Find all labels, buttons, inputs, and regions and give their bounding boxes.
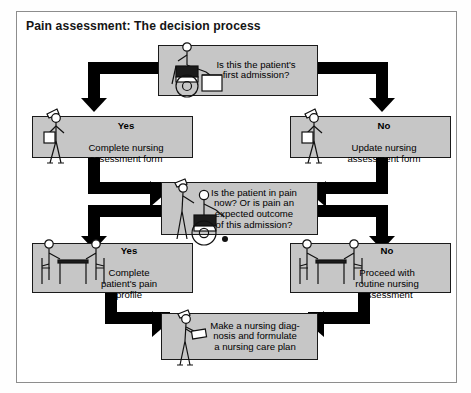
connector-q2-left-vertical (88, 205, 100, 238)
node-routine-nursing-assessment-text: No Proceed with routine nursing assessme… (331, 235, 443, 300)
node-first-admission-question[interactable]: Is this the patient's first admission? (158, 45, 318, 96)
node-nursing-diagnosis-care-plan[interactable]: Make a nursing diag- nosis and formulate… (161, 313, 318, 360)
figure-canvas: Pain assessment: The decision process (0, 0, 471, 393)
connector-q1-right-vertical (376, 62, 388, 99)
node-first-admission-text: Is this the patient's first admission? (202, 60, 310, 81)
node-yes-body-1: Complete nursing assessment form (88, 142, 163, 164)
node-no-label-2: No (331, 246, 443, 257)
node-pain-now-text: Is the patient in pain now? Or is pain a… (198, 187, 310, 230)
node-complete-pain-profile[interactable]: Yes Complete patient's pain profile (32, 243, 193, 293)
node-no-body-2: Proceed with routine nursing assessment (355, 268, 418, 300)
node-routine-nursing-assessment[interactable]: No Proceed with routine nursing assessme… (290, 243, 451, 293)
node-yes-label-2: Yes (73, 246, 185, 257)
node-update-nursing-assessment-text: No Update nursing assessment form (325, 110, 443, 165)
node-no-label-1: No (325, 120, 443, 131)
node-pain-now-question[interactable]: Is the patient in pain now? Or is pain a… (161, 182, 318, 235)
node-complete-pain-profile-text: Yes Complete patient's pain profile (73, 235, 185, 300)
node-yes-label-1: Yes (67, 120, 185, 131)
node-complete-nursing-assessment-text: Yes Complete nursing assessment form (67, 110, 185, 165)
node-update-nursing-assessment[interactable]: No Update nursing assessment form (290, 116, 451, 158)
node-complete-nursing-assessment[interactable]: Yes Complete nursing assessment form (32, 116, 193, 158)
node-yes-body-2: Complete patient's pain profile (101, 268, 157, 300)
connector-q2-right-vertical (376, 205, 388, 238)
node-no-body-1: Update nursing assessment form (347, 142, 420, 164)
connector-q1-left-vertical (88, 62, 100, 99)
figure-title: Pain assessment: The decision process (26, 19, 261, 33)
node-nursing-diagnosis-text: Make a nursing diag- nosis and formulate… (200, 320, 310, 352)
